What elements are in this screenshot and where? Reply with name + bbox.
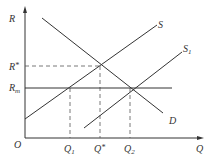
q2-label: Q2	[124, 143, 135, 156]
q-star-label: Q*	[94, 143, 105, 154]
q1-label: Q1	[64, 143, 75, 156]
x-axis-arrow-icon	[197, 136, 204, 140]
supply-demand-diagram: R Q O R* Rm Q1 Q* Q2 S S1 D	[0, 0, 211, 160]
y-axis-arrow-icon	[23, 6, 27, 13]
demand-curve-d	[42, 18, 163, 113]
rm-label: Rm	[8, 82, 20, 95]
supply-curve-s	[25, 25, 157, 119]
s-curve-label: S	[158, 19, 163, 30]
y-axis-label: R	[8, 13, 15, 24]
r-star-label: R*	[8, 61, 19, 72]
origin-label: O	[14, 139, 21, 150]
s1-curve-label: S1	[183, 43, 192, 56]
x-axis-label: Q	[196, 143, 204, 154]
d-curve-label: D	[168, 115, 177, 126]
